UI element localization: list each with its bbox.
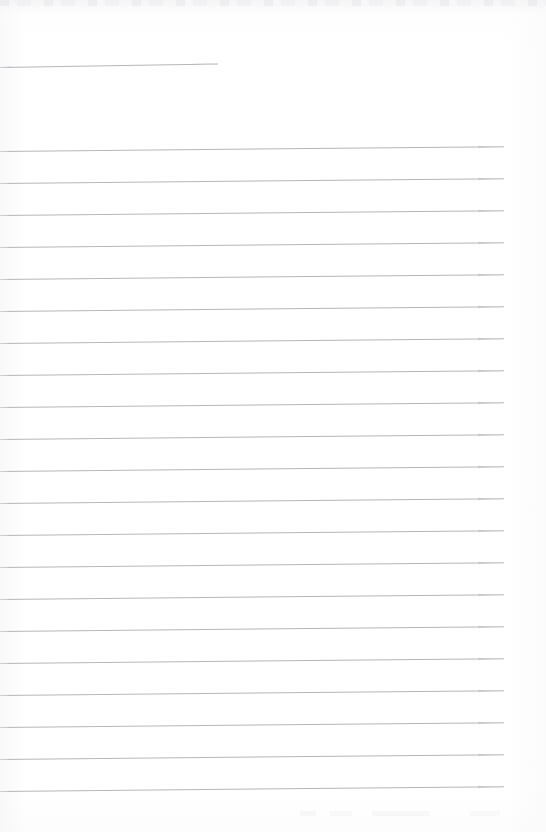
ruled-line bbox=[0, 434, 504, 440]
ruled-line bbox=[0, 402, 504, 408]
ruled-line bbox=[0, 498, 504, 504]
ruled-line bbox=[0, 370, 504, 376]
ruled-line bbox=[0, 530, 504, 536]
ruled-line bbox=[0, 754, 504, 760]
ruled-line bbox=[0, 786, 504, 792]
ruled-line bbox=[0, 594, 504, 600]
ruled-line bbox=[0, 562, 504, 568]
ruled-line bbox=[0, 626, 504, 632]
ruled-line bbox=[0, 178, 504, 184]
ruled-line bbox=[0, 722, 504, 728]
ruled-line bbox=[0, 210, 504, 216]
ruled-line bbox=[0, 242, 504, 248]
ruled-line bbox=[0, 658, 504, 664]
ruled-line bbox=[0, 466, 504, 472]
scan-noise-band-top bbox=[0, 0, 546, 6]
paper-tone-overlay bbox=[0, 0, 546, 832]
scanned-page bbox=[0, 0, 546, 832]
ruled-line bbox=[0, 338, 504, 344]
scan-noise-band-bottom bbox=[0, 811, 546, 816]
ruled-line bbox=[0, 306, 504, 312]
ruled-line bbox=[0, 146, 504, 152]
ruled-line bbox=[0, 274, 504, 280]
header-rule-line bbox=[0, 64, 218, 68]
ruled-line bbox=[0, 690, 504, 696]
